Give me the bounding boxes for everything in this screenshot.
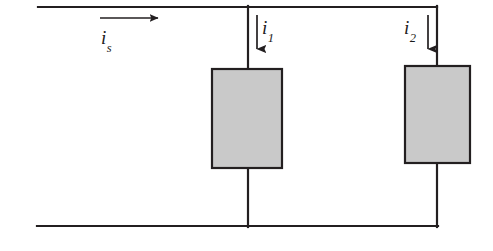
resistor-block-right (405, 66, 470, 163)
branch2-current-label: i2 (404, 18, 416, 41)
source-current-label: is (101, 28, 111, 51)
branch2-current-subscript: 2 (410, 31, 416, 45)
circuit-diagram-canvas: is i1 i2 (0, 0, 493, 251)
source-current-symbol: i (101, 27, 106, 48)
resistor-block-left (212, 69, 282, 168)
branch1-current-subscript: 1 (268, 31, 274, 45)
source-current-subscript: s (107, 41, 112, 55)
circuit-schematic-svg (0, 0, 493, 251)
branch1-current-label: i1 (262, 18, 274, 41)
branch2-current-symbol: i (404, 17, 409, 38)
branch1-current-symbol: i (262, 17, 267, 38)
